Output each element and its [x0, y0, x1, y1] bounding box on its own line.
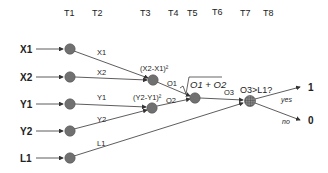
- edge-label-x2: X2: [97, 68, 106, 77]
- formula-dx-squared: (X2-X1)²: [140, 64, 169, 73]
- time-step-t1: T1: [64, 8, 75, 18]
- input-nodes: [65, 44, 75, 163]
- node-dy-squared: [147, 103, 157, 113]
- edge-label-yes: yes: [280, 96, 292, 104]
- input-label-y2: Y2: [20, 126, 33, 137]
- node-y2: [65, 126, 75, 136]
- edge-label-x1: X1: [97, 48, 106, 57]
- time-step-t4: T4: [168, 8, 179, 18]
- formula-compare: O3>L1?: [240, 85, 272, 95]
- node-compare: [245, 96, 256, 107]
- time-step-t8: T8: [263, 8, 274, 18]
- time-step-t5: T5: [187, 8, 198, 18]
- node-x2: [65, 72, 75, 82]
- edge-label-l1: L1: [97, 139, 105, 148]
- edge-label-no: no: [282, 118, 290, 125]
- time-step-t7: T7: [240, 8, 251, 18]
- node-l1: [65, 153, 75, 163]
- node-y1: [65, 99, 75, 109]
- input-label-x1: X1: [20, 44, 33, 55]
- input-label-l1: L1: [20, 153, 32, 164]
- time-step-t2: T2: [92, 8, 103, 18]
- edges: [74, 51, 300, 156]
- input-arrows: [36, 49, 63, 158]
- output-yes: 1: [308, 82, 314, 93]
- node-x1: [65, 44, 75, 54]
- node-sqrt: [190, 93, 200, 103]
- output-no: 0: [308, 115, 314, 126]
- dataflow-diagram: T1 T2 T3 T4 T5 T6 T7 T8 X1 X2 Y1 Y2 L1: [0, 0, 328, 173]
- input-label-y1: Y1: [20, 99, 33, 110]
- edge-label-y1: Y1: [97, 93, 106, 102]
- edge-label-o2: O2: [166, 96, 176, 105]
- time-step-header: T1 T2 T3 T4 T5 T6 T7 T8: [64, 7, 274, 18]
- edge-label-y2: Y2: [97, 115, 106, 124]
- time-step-t6: T6: [212, 7, 223, 17]
- node-dx-squared: [148, 75, 158, 85]
- time-step-t3: T3: [140, 8, 151, 18]
- formula-sqrt: O1 + O2: [190, 79, 227, 90]
- formula-dy-squared: (Y2-Y1)²: [133, 93, 162, 102]
- edge-label-o1: O1: [167, 79, 177, 88]
- input-label-x2: X2: [20, 72, 33, 83]
